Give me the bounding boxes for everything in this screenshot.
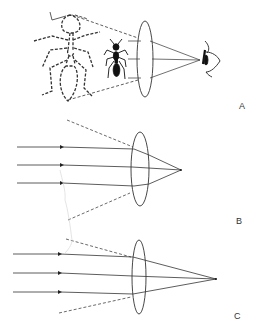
dashed-lines-b bbox=[67, 120, 133, 220]
converging-rays-b bbox=[132, 149, 181, 186]
panel-b: B bbox=[17, 120, 242, 226]
panel-label-b: B bbox=[236, 216, 242, 226]
convex-lens-c bbox=[132, 240, 146, 314]
panel-label-c: C bbox=[234, 311, 241, 321]
real-ant-icon bbox=[104, 39, 128, 79]
panel-label-a: A bbox=[239, 101, 245, 111]
virtual-image-dashed-lines bbox=[68, 15, 138, 100]
parallel-rays-c bbox=[13, 254, 133, 294]
convex-lens-b bbox=[131, 132, 149, 206]
focal-point-c bbox=[215, 278, 217, 280]
incident-rays-a bbox=[128, 41, 141, 78]
lens-optics-diagram: A B bbox=[0, 0, 257, 336]
converging-rays-a bbox=[150, 41, 200, 78]
parallel-rays-b bbox=[17, 147, 134, 186]
virtual-image-ant-icon bbox=[34, 12, 100, 101]
dashed-lines-c bbox=[59, 239, 131, 313]
focal-point-b bbox=[180, 169, 182, 171]
panel-c: C bbox=[13, 239, 241, 321]
panel-a: A bbox=[34, 12, 245, 111]
eye-icon bbox=[203, 41, 220, 77]
